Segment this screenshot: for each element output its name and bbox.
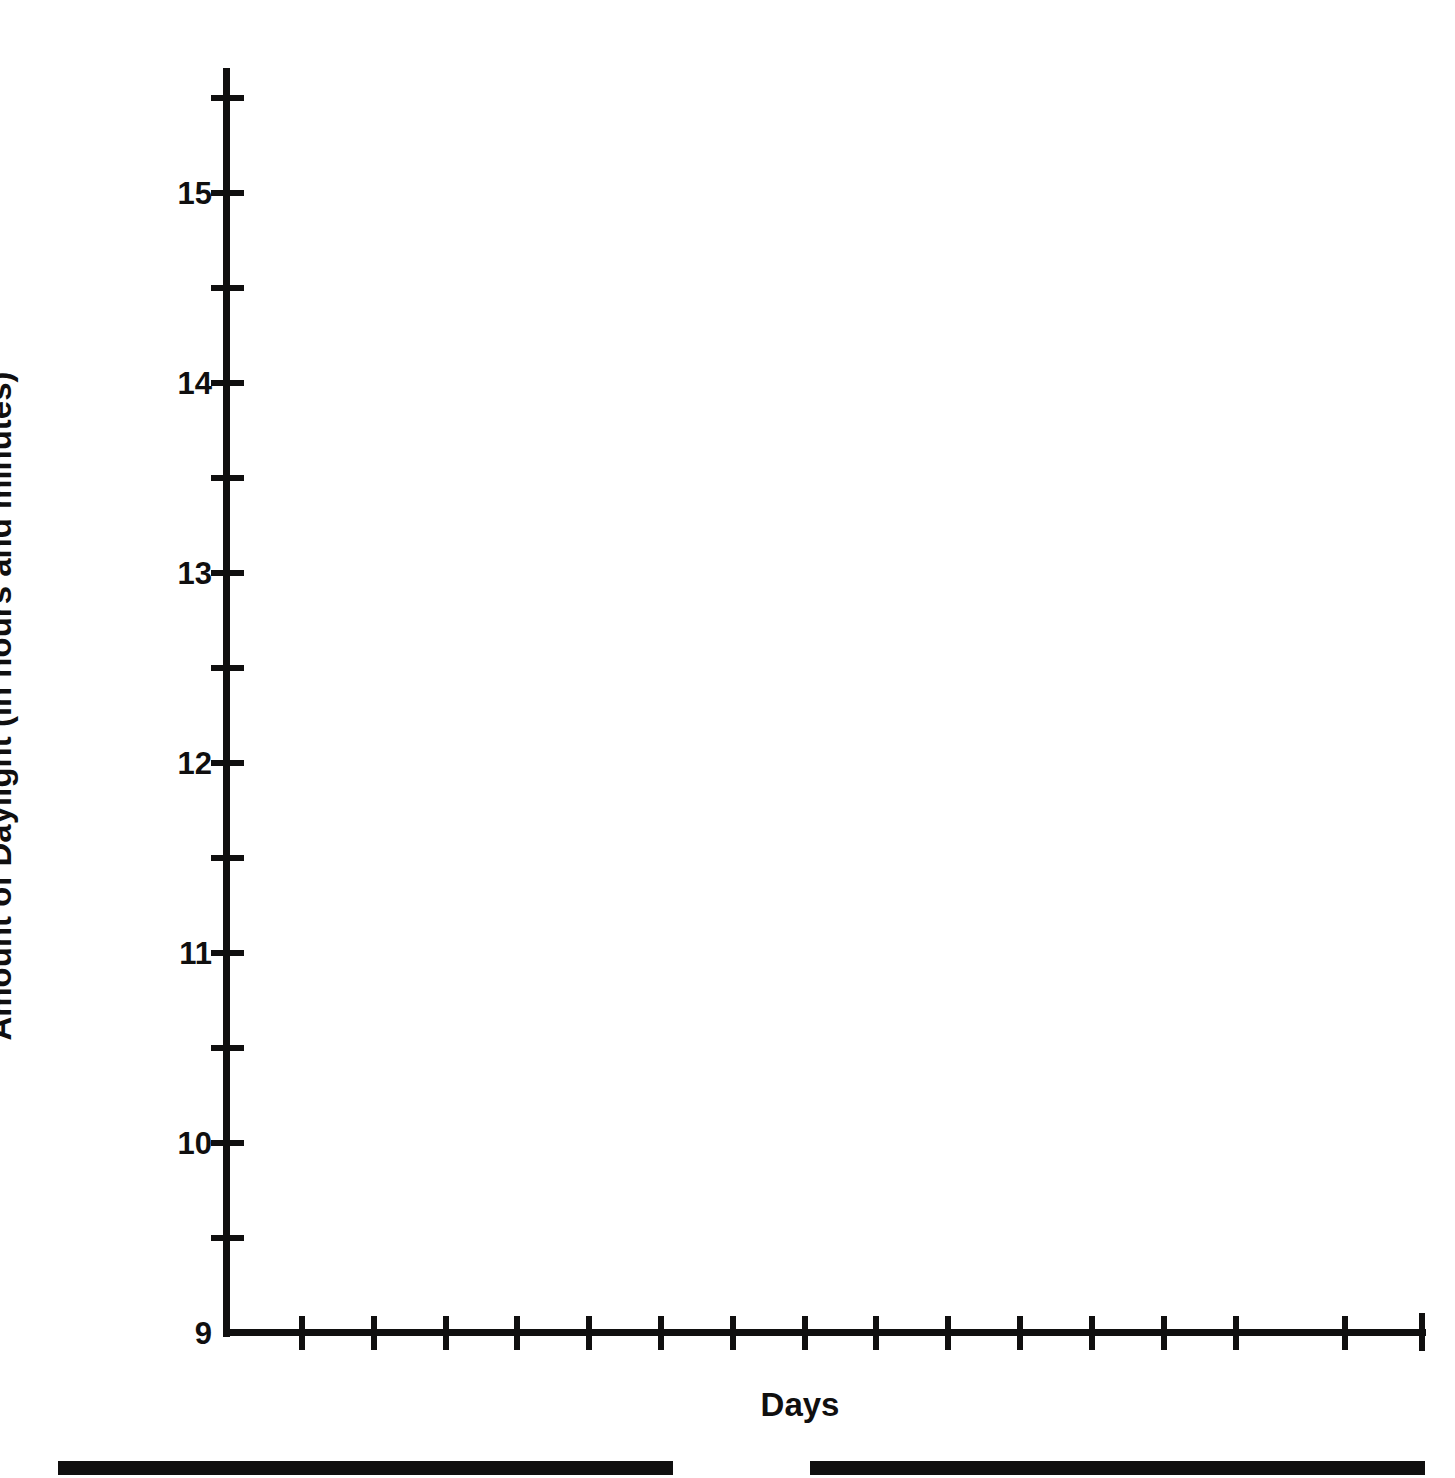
x-axis-tick: [730, 1316, 736, 1350]
y-axis-minor-tick: [211, 665, 244, 671]
x-axis-tick: [514, 1316, 520, 1350]
y-axis-minor-tick: [211, 285, 244, 291]
y-axis-minor-tick: [211, 95, 244, 101]
x-axis-line: [223, 1329, 1426, 1336]
y-axis-major-tick: [211, 570, 244, 576]
x-axis-tick: [1342, 1316, 1348, 1350]
y-axis-minor-tick: [211, 475, 244, 481]
chart-canvas: 1514131211109 Amount of Daylight (in hou…: [0, 0, 1455, 1478]
y-axis-title-text: Amount of Daylight (in hours and minutes…: [0, 326, 19, 1086]
y-axis-tick-label: 13: [178, 558, 212, 589]
x-axis-tick: [371, 1316, 377, 1350]
y-axis-major-tick: [211, 760, 244, 766]
y-axis-minor-tick: [211, 855, 244, 861]
x-axis-tick: [299, 1316, 305, 1350]
y-axis-tick-label: 14: [178, 368, 212, 399]
y-axis-tick-label: 10: [178, 1128, 212, 1159]
x-axis-tick: [1233, 1316, 1239, 1350]
x-axis-tick: [1089, 1316, 1095, 1350]
y-axis-tick-label: 11: [179, 938, 212, 969]
x-axis-tick: [802, 1316, 808, 1350]
y-axis-major-tick: [211, 190, 244, 196]
y-axis-minor-tick: [211, 1235, 244, 1241]
y-axis-major-tick: [211, 950, 244, 956]
x-axis-tick: [586, 1316, 592, 1350]
x-axis-tick: [1161, 1316, 1167, 1350]
y-axis-line: [223, 68, 230, 1337]
right-rule: [810, 1461, 1425, 1475]
y-axis-tick-label: 9: [195, 1318, 212, 1349]
y-axis-major-tick: [211, 380, 244, 386]
x-axis-tick: [1017, 1316, 1023, 1350]
x-axis-tick: [873, 1316, 879, 1350]
x-axis-tick: [658, 1316, 664, 1350]
y-axis-tick-label: 15: [178, 178, 212, 209]
y-axis-tick-label: 12: [178, 748, 212, 779]
y-axis-major-tick: [211, 1140, 244, 1146]
x-axis-end-cap: [1419, 1313, 1425, 1351]
x-axis-tick: [443, 1316, 449, 1350]
x-axis-tick: [945, 1316, 951, 1350]
x-axis-title: Days: [0, 1386, 1455, 1424]
left-rule: [58, 1461, 673, 1475]
y-axis-minor-tick: [211, 1045, 244, 1051]
